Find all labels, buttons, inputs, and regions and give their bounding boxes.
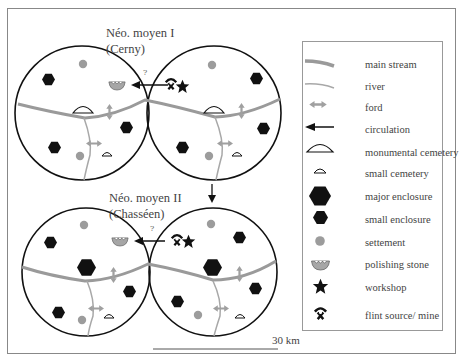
- period-1-map: [15, 46, 281, 180]
- period-2-title-line1: Néo. moyen II: [109, 190, 182, 206]
- legend-label-settlement: settement: [365, 236, 405, 250]
- legend: main stream river ford circulation monum…: [302, 41, 443, 331]
- legend-label-small-cemetery: small cemetery: [365, 167, 429, 181]
- period-1-title-line1: Néo. moyen I: [106, 25, 174, 41]
- legend-label-monumental-cemetery: monumental cemetery: [365, 146, 459, 160]
- legend-label-flint-source: flint source/ mine: [365, 309, 439, 323]
- period-2-title: Néo. moyen II (Chasséen): [109, 190, 182, 222]
- scale-label: 30 km: [272, 334, 300, 346]
- legend-label-major-enclosure: major enclosure: [365, 190, 432, 204]
- period-2-title-line2: (Chasséen): [109, 206, 182, 222]
- legend-label-ford: ford: [365, 101, 383, 115]
- legend-label-small-enclosure: small enclosure: [365, 213, 431, 227]
- legend-label-workshop: workshop: [365, 281, 406, 295]
- legend-label-main-stream: main stream: [365, 58, 417, 72]
- legend-label-circulation: circulation: [365, 123, 410, 137]
- legend-label-polishing-stone: polishing stone: [365, 258, 429, 272]
- period-1-title-line2: (Cerny): [106, 41, 174, 57]
- legend-label-river: river: [365, 80, 385, 94]
- question-mark-1: ?: [143, 68, 147, 77]
- question-mark-2: ?: [150, 224, 154, 233]
- period-1-title: Néo. moyen I (Cerny): [106, 25, 174, 57]
